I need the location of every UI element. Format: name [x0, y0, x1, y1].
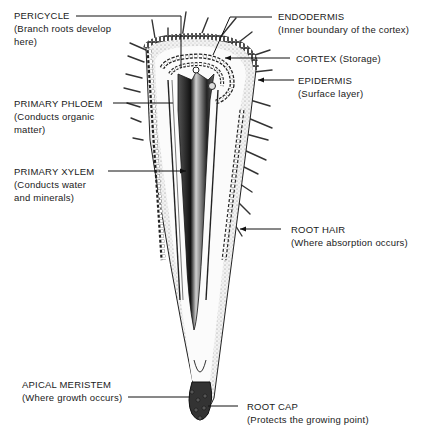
- label-desc: matter): [14, 123, 103, 136]
- label-cortex: CORTEX (Storage): [296, 52, 381, 65]
- root-cap-region: [189, 382, 212, 420]
- label-pericycle: PERICYCLE (Branch roots develop here): [14, 9, 111, 48]
- label-desc: (Branch roots develop: [14, 22, 111, 35]
- label-desc: (Inner boundary of the cortex): [278, 23, 409, 36]
- label-primary-phloem: PRIMARY PHLOEM (Conducts organic matter): [14, 97, 103, 136]
- label-desc: (Surface layer): [298, 87, 363, 100]
- label-endodermis: ENDODERMIS (Inner boundary of the cortex…: [278, 10, 409, 36]
- label-title: PERICYCLE: [14, 9, 111, 22]
- label-title: APICAL MERISTEM: [22, 378, 122, 391]
- label-title: PRIMARY XYLEM: [14, 165, 94, 178]
- label-root-cap: ROOT CAP (Protects the growing point): [247, 400, 369, 426]
- label-title: ROOT CAP: [247, 400, 369, 413]
- label-desc: (Where growth occurs): [22, 391, 122, 404]
- label-title: PRIMARY PHLOEM: [14, 97, 103, 110]
- label-epidermis: EPIDERMIS (Surface layer): [298, 74, 363, 100]
- label-root-hair: ROOT HAIR (Where absorption occurs): [291, 223, 408, 249]
- label-desc: (Conducts organic: [14, 110, 103, 123]
- label-title: CORTEX (Storage): [296, 52, 381, 65]
- root-tip-illustration: [0, 0, 423, 437]
- label-desc: and minerals): [14, 191, 94, 204]
- label-title: ENDODERMIS: [278, 10, 409, 23]
- label-desc: (Conducts water: [14, 178, 94, 191]
- label-title: EPIDERMIS: [298, 74, 363, 87]
- label-desc: (Protects the growing point): [247, 413, 369, 426]
- label-desc: here): [14, 35, 111, 48]
- label-desc: (Where absorption occurs): [291, 236, 408, 249]
- label-apical-meristem: APICAL MERISTEM (Where growth occurs): [22, 378, 122, 404]
- label-title: ROOT HAIR: [291, 223, 408, 236]
- label-primary-xylem: PRIMARY XYLEM (Conducts water and minera…: [14, 165, 94, 204]
